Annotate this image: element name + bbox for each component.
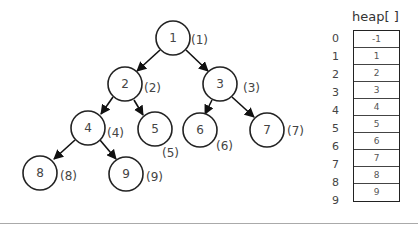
heap-cell: 7 bbox=[354, 150, 399, 167]
edge-4-8 bbox=[54, 140, 75, 159]
tree-node-3: 3 bbox=[203, 67, 237, 101]
binary-tree-diagram: 1 (1) 2 (2) 3 (3) 4 (4) 5 (5) 6 (6) 7 (7… bbox=[0, 0, 330, 229]
heap-index: 8 bbox=[332, 176, 344, 189]
heap-index: 1 bbox=[332, 50, 344, 63]
node-value: 4 bbox=[84, 121, 92, 135]
heap-index: 6 bbox=[332, 140, 344, 153]
heap-index: 7 bbox=[332, 158, 344, 171]
heap-array-table: -1 1 2 3 4 5 6 7 8 9 bbox=[353, 30, 400, 202]
heap-cell: 1 bbox=[354, 48, 399, 65]
heap-index: 3 bbox=[332, 86, 344, 99]
heap-index: 5 bbox=[332, 122, 344, 135]
heap-cell: 2 bbox=[354, 65, 399, 82]
edge-1-3 bbox=[186, 50, 208, 71]
heap-cell: 4 bbox=[354, 99, 399, 116]
heap-cell: 6 bbox=[354, 133, 399, 150]
heap-cell: 3 bbox=[354, 82, 399, 99]
node-index-label: (1) bbox=[191, 33, 208, 47]
tree-node-9: 9 bbox=[109, 157, 143, 191]
edge-3-7 bbox=[232, 97, 254, 117]
node-value: 6 bbox=[196, 123, 204, 137]
edge-4-9 bbox=[100, 140, 116, 159]
edge-3-6 bbox=[205, 100, 212, 114]
heap-cell: 8 bbox=[354, 167, 399, 184]
node-index-label: (9) bbox=[146, 170, 163, 184]
node-value: 8 bbox=[36, 166, 44, 180]
edge-1-2 bbox=[137, 50, 160, 71]
tree-node-7: 7 bbox=[250, 113, 284, 147]
heap-index: 2 bbox=[332, 68, 344, 81]
heap-array-title: heap[ ] bbox=[352, 9, 399, 24]
node-value: 5 bbox=[151, 122, 159, 136]
tree-node-5: 5 bbox=[138, 112, 172, 146]
heap-cell: -1 bbox=[354, 31, 399, 48]
tree-node-8: 8 bbox=[23, 156, 57, 190]
node-value: 3 bbox=[216, 77, 224, 91]
node-index-label: (4) bbox=[107, 126, 124, 140]
node-value: 2 bbox=[121, 77, 129, 91]
edge-2-4 bbox=[101, 97, 113, 114]
heap-index: 9 bbox=[332, 194, 344, 207]
tree-node-1: 1 bbox=[156, 21, 190, 55]
node-index-label: (8) bbox=[60, 169, 77, 183]
divider bbox=[0, 223, 418, 224]
node-index-label: (6) bbox=[216, 139, 233, 153]
node-value: 7 bbox=[263, 123, 271, 137]
node-index-label: (5) bbox=[162, 146, 179, 160]
node-index-label: (7) bbox=[287, 124, 304, 138]
node-index-label: (2) bbox=[144, 81, 161, 95]
tree-node-6: 6 bbox=[183, 113, 217, 147]
heap-cell: 9 bbox=[354, 184, 399, 201]
node-value: 1 bbox=[169, 31, 177, 45]
heap-cell: 5 bbox=[354, 116, 399, 133]
tree-node-4: 4 bbox=[71, 111, 105, 145]
node-index-label: (3) bbox=[243, 81, 260, 95]
edge-2-5 bbox=[134, 100, 143, 115]
node-value: 9 bbox=[122, 167, 130, 181]
tree-node-2: 2 bbox=[108, 67, 142, 101]
heap-index: 4 bbox=[332, 104, 344, 117]
heap-index: 0 bbox=[332, 32, 344, 45]
